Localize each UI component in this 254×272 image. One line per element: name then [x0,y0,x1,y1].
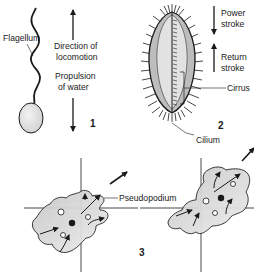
vacuole [61,233,66,238]
nucleus [69,220,75,226]
panel-3-amoeboid: Pseudopodium 3 [24,148,254,272]
movement-arrow-right [242,148,254,161]
flagellum-leader [27,44,33,56]
movement-arrow-left [110,172,127,184]
panel-number-2: 2 [218,120,224,131]
label-return-2: stroke [221,63,245,73]
cilium-leader [172,123,194,135]
label-cirrus: Cirrus [227,83,250,93]
label-direction-1: Direction of [54,41,98,51]
cell-body [19,103,43,133]
panel-2-ciliate: Cirrus Power stroke Return stroke 2 Cili… [141,4,250,145]
vacuole [86,215,91,220]
label-cilium: Cilium [196,135,220,145]
label-pseudopodium: Pseudopodium [119,193,176,203]
nucleus [218,195,224,201]
label-flagellum: Flagellum [3,33,40,43]
locomotion-diagram: Flagellum Direction of locomotion Propul… [0,0,254,272]
vacuole [231,182,236,187]
panel-number-1: 1 [90,118,96,129]
vacuole [213,211,218,216]
label-propulsion-2: of water [58,82,89,92]
vacuole [203,198,209,204]
label-propulsion-1: Propulsion [55,71,96,81]
label-power-2: stroke [221,19,245,29]
vacuole [58,209,64,215]
label-power-1: Power [221,8,245,18]
panel-1-flagellate: Flagellum Direction of locomotion Propul… [3,8,98,133]
flagellum [31,8,40,108]
label-direction-2: locomotion [56,52,98,62]
panel-number-3: 3 [139,247,145,258]
label-return-1: Return [221,52,247,62]
